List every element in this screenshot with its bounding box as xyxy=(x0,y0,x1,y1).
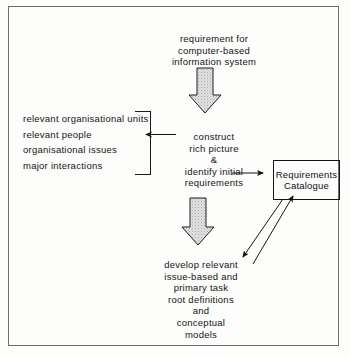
list-bracket xyxy=(135,111,151,175)
stage-one-label: construct rich picture & identify initia… xyxy=(159,131,269,189)
requirements-catalogue-box[interactable]: Requirements Catalogue xyxy=(273,160,340,200)
top-input-label: requirement for computer-based informati… xyxy=(154,33,274,68)
stage-two-label: develop relevant issue-based and primary… xyxy=(145,259,257,340)
requirements-catalogue-label: Requirements Catalogue xyxy=(276,169,338,192)
diagram-canvas: requirement for computer-based informati… xyxy=(0,0,350,356)
diagram-frame: requirement for computer-based informati… xyxy=(8,6,339,346)
relevant-items-list: relevant organisational units relevant p… xyxy=(23,111,147,173)
